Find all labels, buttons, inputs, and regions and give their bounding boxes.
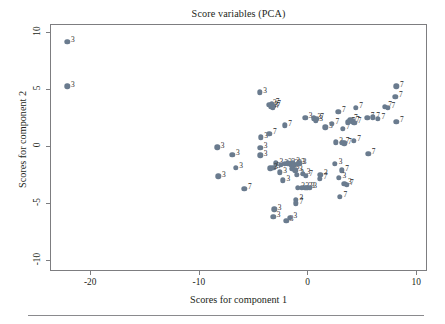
scatter-point: [366, 151, 371, 156]
scatter-point: [332, 161, 337, 166]
pca-scatter-figure: Score variables (PCA) 333377373773373377…: [0, 0, 445, 324]
scatter-point: [277, 170, 282, 175]
scatter-point: [323, 125, 328, 130]
x-tick-label: 10: [411, 277, 420, 287]
chart-title: Score variables (PCA): [50, 8, 427, 19]
scatter-point-label: 3: [313, 182, 317, 189]
x-tick-label: 0: [305, 277, 310, 287]
scatter-point-label: 7: [400, 81, 404, 88]
scatter-point: [394, 84, 399, 89]
scatter-point: [344, 182, 349, 187]
scatter-point-label: 7: [309, 171, 313, 178]
scatter-point: [257, 89, 262, 94]
scatter-point: [65, 84, 70, 89]
y-tick-label: -5: [30, 197, 44, 207]
x-tick-label: -10: [193, 277, 206, 287]
scatter-point: [215, 145, 220, 150]
scatter-point: [282, 122, 287, 127]
scatter-point-label: 7: [382, 114, 386, 121]
scatter-point-label: 7: [344, 192, 348, 199]
scatter-point-label: 7: [288, 120, 292, 127]
scatter-point: [267, 131, 272, 136]
scatter-point: [268, 166, 273, 171]
y-tick-mark: [46, 32, 50, 33]
y-tick-mark: [46, 146, 50, 147]
scatter-point-label: 7: [335, 119, 339, 126]
y-tick-label: -10: [30, 254, 44, 264]
scatter-point-label: 7: [358, 118, 362, 125]
scatter-point: [303, 173, 308, 178]
scatter-point-label: 7: [400, 116, 404, 123]
scatter-point-label: 3: [236, 149, 240, 156]
y-tick-label: 5: [30, 83, 44, 93]
x-axis-label: Scores for component 1: [50, 294, 427, 305]
scatter-point: [333, 140, 338, 145]
scatter-point: [394, 119, 399, 124]
scatter-point-label: 3: [264, 150, 268, 157]
scatter-point-label: 7: [248, 184, 252, 191]
scatter-point: [65, 39, 70, 44]
scatter-point-label: 7: [323, 173, 327, 180]
scatter-point: [336, 175, 341, 180]
scatter-point-label: 3: [71, 37, 75, 44]
scatter-point: [242, 186, 247, 191]
y-tick-mark: [46, 260, 50, 261]
scatter-point: [329, 121, 334, 126]
scatter-point: [230, 152, 235, 157]
scatter-point: [313, 118, 318, 123]
footer-rule: [28, 315, 424, 316]
y-tick-label: 0: [30, 140, 44, 150]
x-tick-label: -20: [84, 277, 97, 287]
scatter-point: [375, 116, 380, 121]
scatter-point: [340, 126, 345, 131]
scatter-point-label: 3: [287, 175, 291, 182]
x-tick-mark: [416, 271, 417, 275]
scatter-point: [351, 120, 356, 125]
scatter-point: [337, 194, 342, 199]
scatter-point-label: 3: [303, 158, 307, 165]
plot-area: 3333773737733733777777777777777737777333…: [51, 25, 426, 270]
scatter-point-label: 7: [391, 103, 395, 110]
scatter-point-label: 3: [221, 142, 225, 149]
scatter-point: [293, 200, 298, 205]
scatter-point: [270, 214, 275, 219]
scatter-point-label: 3: [294, 213, 298, 220]
scatter-point-label: 3: [71, 81, 75, 88]
scatter-point: [336, 109, 341, 114]
scatter-point: [351, 138, 356, 143]
y-tick-label: 10: [30, 26, 44, 36]
y-tick-mark: [46, 203, 50, 204]
scatter-point: [294, 172, 299, 177]
scatter-point-label: 7: [350, 180, 354, 187]
scatter-point: [393, 94, 398, 99]
plot-frame: 3333773737733733777777777777777737777333…: [50, 24, 427, 271]
scatter-point-label: 3: [339, 159, 343, 166]
scatter-point-label: 7: [276, 102, 280, 109]
y-tick-mark: [46, 89, 50, 90]
scatter-point-label: 7: [273, 128, 277, 135]
scatter-point: [216, 174, 221, 179]
x-tick-mark: [307, 271, 308, 275]
scatter-point-label: 3: [222, 171, 226, 178]
scatter-point: [303, 115, 308, 120]
scatter-point: [258, 134, 263, 139]
y-axis-label: Scores for component 2: [17, 60, 28, 220]
x-tick-mark: [199, 271, 200, 275]
scatter-point-label: 7: [359, 103, 363, 110]
scatter-point: [317, 176, 322, 181]
scatter-point: [385, 105, 390, 110]
scatter-point: [257, 153, 262, 158]
scatter-point-label: 3: [239, 163, 243, 170]
scatter-point-label: 7: [342, 106, 346, 113]
scatter-point-label: 3: [319, 115, 323, 122]
scatter-point: [353, 105, 358, 110]
scatter-point-label: 3: [343, 172, 347, 179]
scatter-point-label: 7: [300, 198, 304, 205]
scatter-point-label: 7: [372, 148, 376, 155]
scatter-point-label: 3: [277, 211, 281, 218]
scatter-point: [257, 145, 262, 150]
scatter-point: [280, 178, 285, 183]
scatter-point-label: 7: [399, 91, 403, 98]
x-tick-mark: [90, 271, 91, 275]
scatter-point-label: 3: [263, 87, 267, 94]
